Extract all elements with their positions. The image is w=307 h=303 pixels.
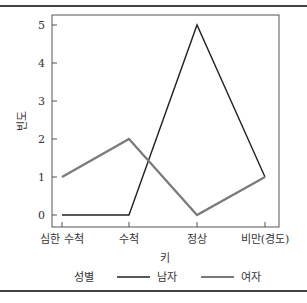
line-chart: 012345심한 수척수척정상비만(경도)키빈도성별남자여자: [0, 0, 307, 303]
legend-label: 남자: [157, 271, 177, 284]
x-tick-label: 정상: [187, 233, 207, 246]
y-tick-label: 1: [38, 171, 45, 184]
y-tick-label: 4: [38, 57, 45, 70]
y-axis-label: 빈도: [16, 111, 29, 131]
legend-label: 여자: [241, 271, 261, 284]
y-tick-label: 0: [38, 209, 45, 222]
legend-title: 성별: [74, 271, 94, 284]
series-line: [62, 25, 265, 215]
series-line: [62, 139, 265, 215]
x-tick-label: 비만(경도): [241, 233, 290, 246]
y-tick-label: 3: [38, 95, 45, 108]
y-tick-label: 5: [38, 19, 45, 32]
y-tick-label: 2: [38, 133, 45, 146]
plot-frame: [52, 15, 279, 227]
x-tick-label: 심한 수척: [40, 233, 84, 246]
x-tick-label: 수척: [119, 233, 139, 246]
x-axis-label: 키: [160, 252, 170, 265]
